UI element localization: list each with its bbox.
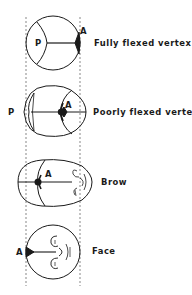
anterior-marker-2: A: [65, 101, 72, 110]
anterior-marker-4: A: [16, 248, 23, 257]
caption-poorly-flexed-vertex: Poorly flexed vertex: [93, 108, 192, 116]
anterior-marker-3: A: [45, 170, 52, 179]
caption-face: Face: [92, 247, 116, 255]
posterior-marker-2: P: [8, 108, 14, 117]
head-face: [26, 225, 80, 279]
head-poorly-flexed-vertex: [24, 86, 86, 137]
head-brow: [18, 160, 92, 207]
anterior-marker-1: A: [80, 27, 87, 36]
caption-fully-flexed-vertex: Fully flexed vertex: [94, 39, 191, 47]
posterior-marker-1: P: [35, 39, 41, 48]
caption-brow: Brow: [101, 178, 127, 186]
